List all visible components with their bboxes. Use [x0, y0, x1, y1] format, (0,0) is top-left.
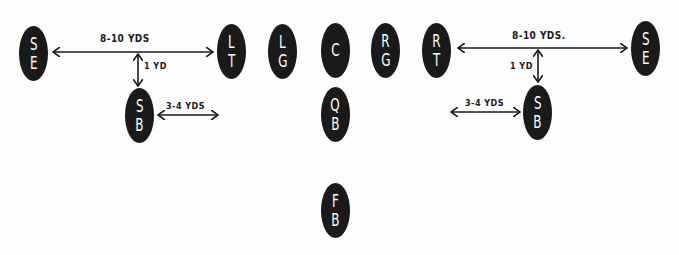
player-lt: L T	[217, 24, 246, 79]
player-se-left: S E	[19, 26, 48, 81]
player-letter: R	[432, 32, 440, 51]
right-sb-offset-label: 3-4 YDS	[465, 98, 504, 108]
player-lg: L G	[268, 24, 297, 79]
player-letter: L	[279, 33, 286, 52]
player-sb-left: S B	[125, 88, 154, 143]
player-letter: S	[30, 35, 38, 54]
player-letter: S	[642, 30, 650, 49]
player-letter: S	[534, 94, 542, 113]
player-letter: R	[381, 32, 389, 51]
player-letter: B	[135, 116, 143, 135]
player-letter: E	[642, 49, 650, 68]
player-qb: Q B	[321, 87, 350, 142]
player-letter: L	[228, 33, 235, 52]
player-se-right: S E	[631, 21, 660, 76]
formation-diagram: 8-10 YDS 1 YD 3-4 YDS 8-10 YDS. 1 YD 3-4…	[0, 0, 679, 255]
player-rt: R T	[422, 23, 451, 78]
player-letter: S	[136, 97, 144, 116]
player-letter: B	[331, 211, 339, 230]
player-letter: G	[278, 52, 287, 71]
left-depth-label: 1 YD	[144, 61, 167, 71]
player-letter: F	[332, 192, 339, 211]
player-letter: B	[533, 113, 541, 132]
player-sb-right: S B	[523, 85, 552, 140]
player-letter: B	[331, 115, 339, 134]
player-letter: Q	[331, 96, 340, 115]
player-c: C	[321, 23, 350, 78]
player-letter: G	[381, 51, 390, 70]
player-letter: E	[30, 54, 38, 73]
player-rg: R G	[371, 23, 400, 78]
player-letter: T	[433, 51, 440, 70]
left-split-label: 8-10 YDS	[100, 33, 150, 44]
left-sb-offset-label: 3-4 YDS	[166, 101, 205, 111]
player-letter: T	[228, 52, 235, 71]
player-letter: C	[331, 41, 339, 60]
player-fb: F B	[321, 183, 350, 238]
right-depth-label: 1 YD	[510, 61, 533, 71]
right-split-label: 8-10 YDS.	[512, 30, 566, 41]
